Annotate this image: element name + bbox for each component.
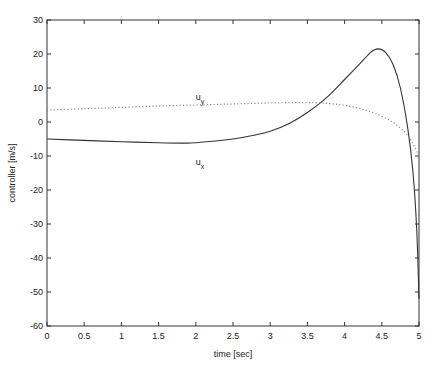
y-tick-label: 30 xyxy=(33,15,43,25)
x-tick-label: 4 xyxy=(342,331,347,341)
y-tick-label: -30 xyxy=(30,219,43,229)
y-tick-label: -40 xyxy=(30,253,43,263)
x-tick-label: 2.5 xyxy=(227,331,240,341)
y-axis-label: controller [m/s] xyxy=(7,143,17,202)
x-tick-label: 0 xyxy=(44,331,49,341)
line-chart: 00.511.522.533.544.55 -60-50-40-30-20-10… xyxy=(0,0,443,367)
x-tick-label: 3.5 xyxy=(301,331,314,341)
plot-area xyxy=(47,20,419,326)
y-tick-label: 20 xyxy=(33,49,43,59)
x-tick-label: 1.5 xyxy=(152,331,165,341)
y-tick-label: -50 xyxy=(30,287,43,297)
y-tick-label: 10 xyxy=(33,83,43,93)
y-tick-label: -10 xyxy=(30,151,43,161)
x-tick-label: 4.5 xyxy=(376,331,389,341)
y-tick-label: 0 xyxy=(38,117,43,127)
x-axis-label: time [sec] xyxy=(214,349,253,359)
x-tick-label: 2 xyxy=(193,331,198,341)
x-tick-label: 5 xyxy=(416,331,421,341)
x-tick-label: 0.5 xyxy=(78,331,91,341)
x-tick-label: 1 xyxy=(119,331,124,341)
y-tick-label: -60 xyxy=(30,321,43,331)
x-tick-label: 3 xyxy=(268,331,273,341)
y-tick-label: -20 xyxy=(30,185,43,195)
